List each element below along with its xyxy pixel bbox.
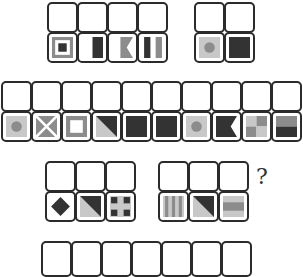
letter-column (107, 2, 137, 62)
letter-input-box[interactable] (271, 81, 302, 112)
flag-tile (224, 32, 255, 63)
letter-column (131, 241, 161, 276)
letter-input-box[interactable] (241, 81, 272, 112)
flag-tile (211, 111, 242, 142)
flag-tile (75, 191, 106, 222)
letter-column (181, 81, 211, 141)
letter-input-box[interactable] (188, 161, 219, 192)
letter-input-box[interactable] (75, 161, 106, 192)
answer-letter-box[interactable] (161, 241, 192, 277)
flag-tile (77, 32, 108, 63)
flag-tile (158, 191, 189, 222)
dark-mid-vertical-flag-icon (142, 37, 163, 58)
diagonal-dark-light-flag-icon (96, 116, 117, 137)
letter-input-box[interactable] (61, 81, 92, 112)
saltire-white-flag-icon (36, 116, 57, 137)
solid-dark-flag-icon (229, 37, 250, 58)
letter-input-box[interactable] (194, 2, 225, 33)
flag-tile (218, 191, 249, 222)
word-group-answer (41, 241, 251, 276)
flag-tile (121, 111, 152, 142)
letter-input-box[interactable] (1, 81, 32, 112)
letter-input-box[interactable] (218, 161, 249, 192)
letter-input-box[interactable] (137, 2, 168, 33)
letter-column (101, 241, 131, 276)
letter-column (161, 241, 191, 276)
letter-column (77, 2, 107, 62)
word-group-word1 (47, 2, 167, 62)
letter-input-box[interactable] (158, 161, 189, 192)
letter-input-box[interactable] (224, 2, 255, 33)
solid-dark-flag-icon (126, 116, 147, 137)
question-mark: ? (256, 164, 268, 189)
circle-on-light-flag-icon (6, 116, 27, 137)
letter-column (121, 81, 151, 141)
white-square-in-mid-flag-icon (66, 116, 87, 137)
letter-column (158, 161, 188, 221)
flag-tile (47, 32, 78, 63)
letter-column (47, 2, 77, 62)
letter-column (71, 241, 101, 276)
letter-column (91, 81, 121, 141)
letter-input-box[interactable] (47, 2, 78, 33)
circle-on-light-flag-icon (199, 37, 220, 58)
diagonal-dark-light-flag-icon (80, 196, 101, 217)
white-dark-vertical-flag-icon (82, 37, 103, 58)
flag-tile (137, 32, 168, 63)
letter-column (75, 161, 105, 221)
word-group-word4 (45, 161, 135, 221)
letter-input-box[interactable] (211, 81, 242, 112)
answer-letter-box[interactable] (191, 241, 222, 277)
four-dark-squares-flag-icon (110, 196, 131, 217)
flag-tile (241, 111, 272, 142)
flag-tile (31, 111, 62, 142)
letter-column (31, 81, 61, 141)
word-group-word3 (1, 81, 301, 141)
answer-letter-box[interactable] (221, 241, 252, 277)
letter-input-box[interactable] (77, 2, 108, 33)
letter-column (224, 2, 254, 62)
letter-column (105, 161, 135, 221)
letter-input-box[interactable] (45, 161, 76, 192)
horizontal-band-mid-flag-icon (223, 196, 244, 217)
answer-letter-box[interactable] (131, 241, 162, 277)
flag-tile (181, 111, 212, 142)
flag-tile (61, 111, 92, 142)
letter-input-box[interactable] (181, 81, 212, 112)
flag-tile (105, 191, 136, 222)
answer-letter-box[interactable] (71, 241, 102, 277)
letter-column (221, 241, 251, 276)
circle-on-light-flag-icon (186, 116, 207, 137)
letter-column (137, 2, 167, 62)
letter-column (1, 81, 31, 141)
letter-column (218, 161, 248, 221)
answer-letter-box[interactable] (41, 241, 72, 277)
letter-column (241, 81, 271, 141)
letter-column (194, 2, 224, 62)
letter-input-box[interactable] (151, 81, 182, 112)
letter-input-box[interactable] (91, 81, 122, 112)
flag-tile (45, 191, 76, 222)
vertical-stripes-mid-flag-icon (163, 196, 184, 217)
letter-column (151, 81, 181, 141)
square-in-square-flag-icon (52, 37, 73, 58)
flag-tile (91, 111, 122, 142)
answer-letter-box[interactable] (101, 241, 132, 277)
checker-light-mid-flag-icon (246, 116, 267, 137)
flag-tile (188, 191, 219, 222)
letter-column (191, 241, 221, 276)
letter-column (45, 161, 75, 221)
swallowtail-light-flag-icon (112, 37, 133, 58)
swallowtail-dark-flag-icon (216, 116, 237, 137)
letter-input-box[interactable] (121, 81, 152, 112)
flag-tile (194, 32, 225, 63)
letter-column (211, 81, 241, 141)
letter-column (61, 81, 91, 141)
letter-column (188, 161, 218, 221)
letter-input-box[interactable] (105, 161, 136, 192)
letter-column (271, 81, 301, 141)
flag-tile (107, 32, 138, 63)
mid-over-dark-flag-icon (276, 116, 297, 137)
letter-input-box[interactable] (107, 2, 138, 33)
letter-input-box[interactable] (31, 81, 62, 112)
